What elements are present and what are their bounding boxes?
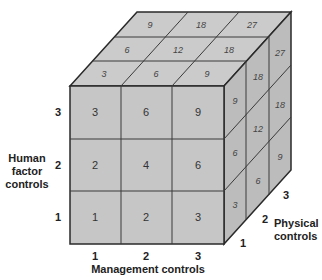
cell-value: 6: [143, 106, 149, 118]
cell-value: 1: [92, 211, 98, 223]
cell-value: 9: [195, 106, 201, 118]
cell-value: 18: [253, 72, 263, 82]
x-tick: 3: [195, 250, 201, 262]
cell-value: 3: [92, 106, 98, 118]
cell-value: 2: [143, 211, 149, 223]
y-tick: 1: [55, 211, 61, 223]
cell-value: 3: [232, 200, 237, 210]
cell-value: 6: [232, 148, 237, 158]
cell-value: 4: [143, 159, 149, 171]
security-cube-diagram: 3 6 9 2 4 6 1 2 3 9 18 27 6 12 18 3 6 9 …: [0, 0, 322, 280]
cell-value: 6: [195, 159, 201, 171]
y-tick: 2: [55, 159, 61, 171]
cell-value: 9: [147, 20, 152, 30]
cell-value: 3: [195, 211, 201, 223]
cell-value: 6: [255, 176, 260, 186]
cell-value: 9: [204, 69, 209, 79]
x-tick: 2: [143, 250, 149, 262]
z-tick: 1: [240, 237, 246, 249]
y-axis-label-line: controls: [5, 178, 48, 190]
y-axis: 3 2 1 Human factor controls: [5, 106, 61, 223]
cell-value: 18: [224, 45, 234, 55]
cell-value: 12: [173, 45, 183, 55]
cell-value: 12: [253, 124, 263, 134]
y-axis-label-line: factor: [12, 165, 43, 177]
x-tick: 1: [92, 250, 98, 262]
cell-value: 3: [101, 69, 106, 79]
cell-value: 6: [153, 69, 158, 79]
x-axis: 1 2 3 Management controls: [91, 250, 205, 275]
cell-value: 9: [232, 96, 237, 106]
y-axis-label-line: Human: [8, 152, 46, 164]
cell-value: 27: [246, 20, 258, 30]
z-tick: 3: [283, 189, 289, 201]
cell-value: 18: [275, 100, 285, 110]
y-tick: 3: [55, 106, 61, 118]
z-axis-label-line: controls: [274, 230, 317, 242]
x-axis-label: Management controls: [91, 263, 205, 275]
z-axis-label-line: Physical: [274, 217, 319, 229]
cell-value: 2: [92, 159, 98, 171]
cell-value: 6: [124, 45, 129, 55]
cell-value: 18: [196, 20, 206, 30]
cell-value: 27: [274, 48, 286, 58]
z-tick: 2: [262, 213, 268, 225]
cell-value: 9: [277, 152, 282, 162]
